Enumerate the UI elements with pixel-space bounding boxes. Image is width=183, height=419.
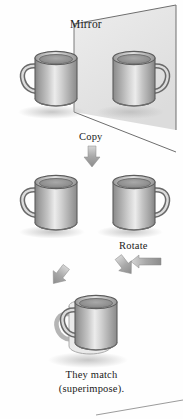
match-caption-line2: (superimpose). [0,382,183,396]
converge-arrow-left [47,262,73,288]
stage-rotate [131,255,161,268]
converge-arrows [47,252,137,288]
rotate-label: Rotate [119,240,148,251]
original-mug-shadow [18,105,86,119]
copy-left-mug [22,175,77,230]
reflected-mug-shadow [96,105,164,119]
original-mug [22,51,77,106]
copy-right-mug [113,175,168,230]
stage-match [48,295,128,368]
rotate-arrow [131,255,161,268]
stage-copy-transition [84,146,100,167]
copy-label: Copy [79,131,103,142]
page-rule [96,400,183,415]
mirror-symmetry-figure [0,0,183,419]
mirror-label: Mirror [70,18,102,30]
match-caption: They match (superimpose). [0,368,183,395]
converge-arrow-right [112,252,138,278]
match-caption-line1: They match [0,368,183,382]
copy-arrow [84,146,100,167]
stage-copy [19,175,168,238]
